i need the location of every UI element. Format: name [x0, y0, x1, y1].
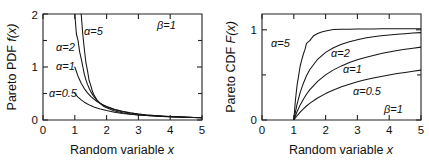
- cdf-xtick-2: 2: [322, 124, 328, 136]
- cdf-xtick-1: 1: [291, 124, 297, 136]
- cdf-ytick-0: 0: [251, 114, 257, 126]
- cdf-y-tick-labels: 0 1: [251, 24, 257, 126]
- cdf-xtick-0: 0: [259, 124, 265, 136]
- cdf-x-axis-title: Random variable x: [289, 143, 394, 157]
- panel-pareto-pdf: 0 1 2 3 4 5 0 1 2 Random variable x Pare…: [0, 0, 215, 164]
- pdf-curve-alpha-1: [75, 67, 202, 118]
- cdf-y-axis-title: Pareto CDF F(x): [224, 21, 238, 113]
- pdf-label-alpha-1: α=1: [56, 60, 75, 72]
- cdf-annot-beta: β=1: [383, 103, 403, 115]
- pdf-label-alpha-2: α=2: [56, 41, 75, 53]
- pdf-xtick-4: 4: [167, 124, 174, 136]
- pdf-xtick-2: 2: [103, 124, 109, 136]
- pdf-y-tick-labels: 0 1 2: [32, 9, 38, 126]
- cdf-xtick-5: 5: [418, 124, 424, 136]
- cdf-xtick-4: 4: [386, 124, 393, 136]
- pareto-distribution-figure: 0 1 2 3 4 5 0 1 2 Random variable x Pare…: [0, 0, 429, 164]
- cdf-label-alpha-1: α=1: [343, 63, 362, 75]
- cdf-label-alpha-0p5: α=0.5: [353, 85, 382, 97]
- cdf-ytick-1: 1: [251, 24, 257, 36]
- cdf-xtick-3: 3: [354, 124, 360, 136]
- pdf-xtick-0: 0: [40, 124, 46, 136]
- cdf-label-alpha-2: α=2: [331, 47, 350, 59]
- pdf-x-tick-labels: 0 1 2 3 4 5: [40, 124, 205, 136]
- panel-pareto-cdf: 0 1 2 3 4 5 0 1 Random variable x Pareto…: [214, 0, 429, 164]
- pdf-ytick-1: 1: [32, 61, 38, 73]
- pdf-xtick-5: 5: [199, 124, 205, 136]
- pdf-annot-beta: β=1: [156, 19, 176, 31]
- pdf-x-axis-title: Random variable x: [70, 143, 175, 157]
- cdf-x-tick-labels: 0 1 2 3 4 5: [259, 124, 424, 136]
- pdf-xtick-3: 3: [135, 124, 141, 136]
- pdf-label-alpha-0p5: α=0.5: [49, 87, 78, 99]
- pdf-ytick-2: 2: [32, 9, 38, 21]
- cdf-label-alpha-5: α=5: [271, 37, 291, 49]
- pdf-ytick-0: 0: [32, 114, 38, 126]
- pdf-y-axis-title: Pareto PDF f(x): [5, 24, 19, 111]
- pdf-xtick-1: 1: [72, 124, 78, 136]
- pdf-label-alpha-5: α=5: [84, 25, 104, 37]
